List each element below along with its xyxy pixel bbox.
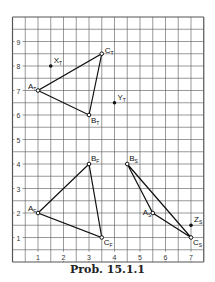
point-label: CS bbox=[193, 238, 203, 248]
x-tick-label: 3 bbox=[87, 254, 91, 261]
figure-caption: Prob. 15.1.1 bbox=[0, 263, 215, 276]
y-tick-label: 7 bbox=[17, 88, 21, 95]
orthographic-grid-diagram: 1234567123456789 ATBTCTAFBFCFBSASCS XTYT… bbox=[0, 0, 215, 282]
x-tick-label: 5 bbox=[138, 254, 142, 261]
y-tick-label: 3 bbox=[17, 186, 21, 193]
point-label: AF bbox=[28, 204, 36, 214]
point-label: YT bbox=[118, 93, 126, 103]
x-tick-label: 6 bbox=[164, 254, 168, 261]
point-label: BF bbox=[91, 154, 99, 164]
point-label: BT bbox=[91, 116, 99, 126]
triangles: ATBTCTAFBFCFBSASCS bbox=[28, 46, 203, 248]
point-label: XT bbox=[54, 56, 62, 66]
point-YT bbox=[113, 101, 117, 105]
point-ZS bbox=[189, 223, 193, 227]
x-tick-label: 2 bbox=[62, 254, 66, 261]
vertex-point bbox=[100, 52, 104, 56]
vertex-point bbox=[151, 211, 155, 215]
y-tick-label: 1 bbox=[17, 235, 21, 242]
point-label: CF bbox=[104, 238, 113, 248]
x-tick-label: 1 bbox=[36, 254, 40, 261]
point-label: BS bbox=[129, 154, 138, 164]
point-label: CT bbox=[105, 46, 114, 56]
x-tick-label: 7 bbox=[189, 254, 193, 261]
y-tick-label: 8 bbox=[17, 63, 21, 70]
points: XTYTZS bbox=[49, 56, 203, 227]
point-label: AT bbox=[28, 82, 36, 92]
y-tick-label: 4 bbox=[17, 161, 21, 168]
point-XT bbox=[49, 64, 53, 68]
vertex-point bbox=[36, 211, 40, 215]
vertex-point bbox=[36, 89, 40, 93]
y-tick-label: 2 bbox=[17, 210, 21, 217]
axis-tick-labels: 1234567123456789 bbox=[15, 38, 196, 261]
y-tick-label: 9 bbox=[17, 39, 21, 46]
y-tick-label: 5 bbox=[17, 137, 21, 144]
point-label: ZS bbox=[194, 215, 203, 225]
x-tick-label: 4 bbox=[113, 254, 117, 261]
y-tick-label: 6 bbox=[17, 112, 21, 119]
triangle-T bbox=[38, 54, 102, 115]
